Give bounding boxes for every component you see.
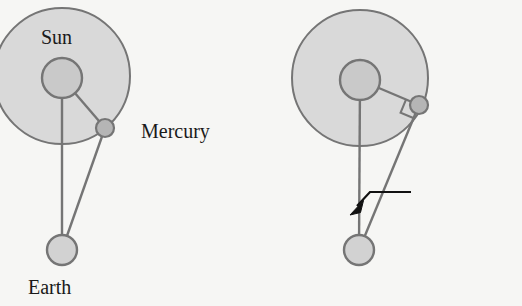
mercury-body [96,119,114,137]
figure-canvas: Sun Mercury Earth [0,0,522,306]
earth-label: Earth [28,277,71,297]
diagram-panel-left: Sun Mercury Earth [0,0,261,306]
mercury-label: Mercury [141,121,210,141]
panel-right-graphics [261,0,522,306]
mercury-body [410,96,428,114]
sun-label: Sun [41,27,72,47]
sun-body [42,58,82,98]
diagram-panel-right: Sun Mercury Earth 28° [261,0,522,306]
sight-line-earth-to-mercury [62,128,105,250]
sight-line-earth-to-sun [359,80,360,250]
panel-left-graphics [0,0,261,306]
sun-body [340,60,380,100]
earth-body [344,235,374,265]
earth-body [47,235,77,265]
